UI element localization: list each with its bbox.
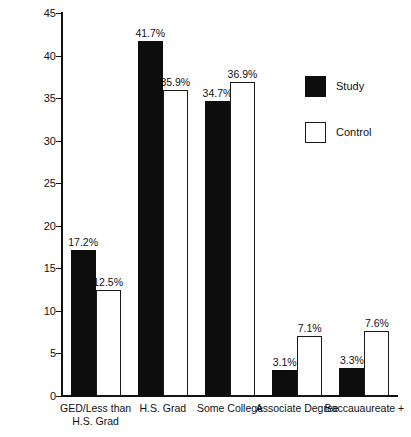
bar-control[interactable]: 35.9%: [163, 90, 188, 396]
bar-study[interactable]: 34.7%: [205, 101, 230, 396]
bar-group: 17.2%12.5%: [71, 13, 121, 396]
bar-value-label: 36.9%: [228, 69, 258, 80]
y-axis-tick-label: 15: [30, 263, 56, 274]
bar-study[interactable]: 3.1%: [272, 370, 297, 396]
y-axis-tick-label: 20: [30, 221, 56, 232]
bar-value-label: 7.6%: [365, 318, 389, 329]
legend-label: Study: [336, 81, 364, 92]
bar-value-label: 3.1%: [273, 357, 297, 368]
y-axis-tick-mark: [56, 396, 62, 397]
y-axis-tick-label: 40: [30, 51, 56, 62]
y-axis-tick-label: 30: [30, 136, 56, 147]
y-axis-tick-label: 5: [30, 348, 56, 359]
bar-control[interactable]: 12.5%: [96, 290, 121, 396]
bar-control[interactable]: 7.6%: [364, 331, 389, 396]
y-axis-tick-label: 45: [30, 8, 56, 19]
bar-value-label: 7.1%: [298, 323, 322, 334]
legend-swatch-study-icon: [305, 76, 326, 97]
x-axis-category-label: Baccauaureate +: [323, 402, 406, 415]
legend-label: Control: [336, 127, 371, 138]
y-axis-tick-label: 25: [30, 178, 56, 189]
chart-legend: StudyControl: [305, 76, 371, 168]
x-axis-category-label-line: H.S. Grad: [54, 415, 137, 428]
bar-study[interactable]: 17.2%: [71, 250, 96, 396]
bar-value-label: 12.5%: [93, 277, 123, 288]
bar-chart: 051015202530354045 17.2%12.5%41.7%35.9%3…: [0, 0, 411, 437]
bar-group: 34.7%36.9%: [205, 13, 255, 396]
legend-item-study[interactable]: Study: [305, 76, 371, 97]
legend-item-control[interactable]: Control: [305, 122, 371, 143]
y-axis-tick-label: 35: [30, 93, 56, 104]
bar-value-label: 34.7%: [203, 88, 233, 99]
bar-control[interactable]: 7.1%: [297, 336, 322, 396]
bar-value-label: 17.2%: [68, 237, 98, 248]
bar-value-label: 41.7%: [135, 28, 165, 39]
bar-control[interactable]: 36.9%: [230, 82, 255, 396]
y-axis-tick-label: 0: [30, 391, 56, 402]
bar-value-label: 3.3%: [340, 355, 364, 366]
legend-swatch-control-icon: [305, 122, 326, 143]
bar-group: 3.3%7.6%: [339, 13, 389, 396]
bar-group: 3.1%7.1%: [272, 13, 322, 396]
x-axis-category-label-line: Baccauaureate +: [323, 402, 406, 415]
bar-study[interactable]: 41.7%: [138, 41, 163, 396]
bar-group: 41.7%35.9%: [138, 13, 188, 396]
bar-value-label: 35.9%: [160, 77, 190, 88]
bar-study[interactable]: 3.3%: [339, 368, 364, 396]
y-axis-tick-label: 10: [30, 306, 56, 317]
plot-area: 17.2%12.5%41.7%35.9%34.7%36.9%3.1%7.1%3.…: [62, 13, 398, 396]
